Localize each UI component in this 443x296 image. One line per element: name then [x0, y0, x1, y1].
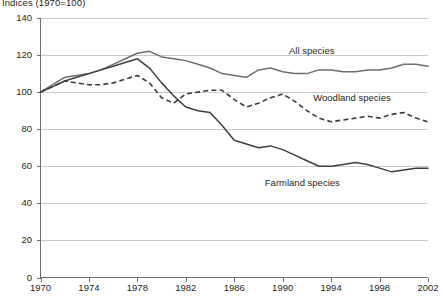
series-label-farmland-species: Farmland species [265, 178, 340, 188]
series-line-all-species [41, 51, 429, 92]
y-axis-tick-label: 140 [6, 13, 32, 23]
y-axis-tick-label: 120 [6, 50, 32, 60]
y-axis-tick-label: 100 [6, 87, 32, 97]
x-axis-tick-label: 1982 [164, 283, 208, 293]
x-axis-tick-label: 1986 [212, 283, 256, 293]
y-axis-tick-label: 20 [6, 235, 32, 245]
gridlines-group [41, 19, 429, 241]
x-axis-tick-label: 1974 [67, 283, 111, 293]
series-label-all-species: All species [289, 46, 334, 56]
x-axis-tick-label: 1990 [261, 283, 305, 293]
x-axis-tick-label: 2002 [406, 283, 443, 293]
x-axis-tick-label: 1978 [115, 283, 159, 293]
y-axis-tick-label: 80 [6, 124, 32, 134]
series-label-woodland-species: Woodland species [313, 93, 390, 103]
x-axis-tick-label: 1994 [309, 283, 353, 293]
x-axis-tick-label: 1970 [19, 283, 63, 293]
y-axis-tick-label: 40 [6, 198, 32, 208]
x-axis-tick-label: 1998 [358, 283, 402, 293]
tickmarks-group [37, 19, 429, 282]
y-axis-tick-label: 60 [6, 161, 32, 171]
y-axis-tick-label: 0 [6, 273, 32, 283]
